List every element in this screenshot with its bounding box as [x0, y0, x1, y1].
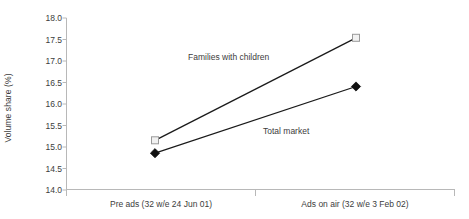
data-point-marker: [152, 137, 159, 144]
series-total-market: [150, 82, 360, 158]
series-families-with-children: [152, 34, 360, 144]
data-point-marker: [150, 149, 159, 158]
x-tick-label-ads-on-air: Ads on air (32 w/e 3 Feb 02): [301, 199, 408, 209]
series-annotation-families-with-children: Families with children: [188, 52, 269, 62]
x-axis-ticks: [67, 190, 455, 196]
data-point-marker: [351, 82, 360, 91]
line-chart: Volume share (%) 14.0 14.5 15.0 15.5 16.…: [0, 0, 469, 219]
series-annotation-total-market: Total market: [263, 126, 309, 136]
series-line: [155, 87, 356, 154]
data-point-marker: [353, 34, 360, 41]
x-tick-label-pre-ads: Pre ads (32 w/e 24 Jun 01): [110, 199, 212, 209]
plot-area: [0, 0, 469, 219]
y-axis-ticks: [63, 18, 67, 190]
